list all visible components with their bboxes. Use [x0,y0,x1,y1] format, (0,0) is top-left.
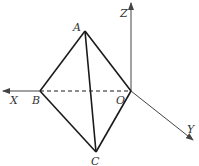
diagram-canvas: Z X Y A B O C [0,0,199,166]
label-o: O [116,94,125,107]
label-x: X [9,94,19,107]
edge-a-c [85,31,96,152]
label-z: Z [119,7,128,20]
label-b: B [31,94,40,107]
edge-a-b [40,31,85,91]
tetrahedron-diagram: Z X Y A B O C [0,0,199,166]
label-a: A [72,21,81,34]
edge-a-o [85,31,131,91]
edge-o-c [96,91,131,152]
label-c: C [91,155,100,166]
y-axis [131,91,193,140]
edge-b-c [40,91,96,152]
label-y: Y [187,123,196,136]
